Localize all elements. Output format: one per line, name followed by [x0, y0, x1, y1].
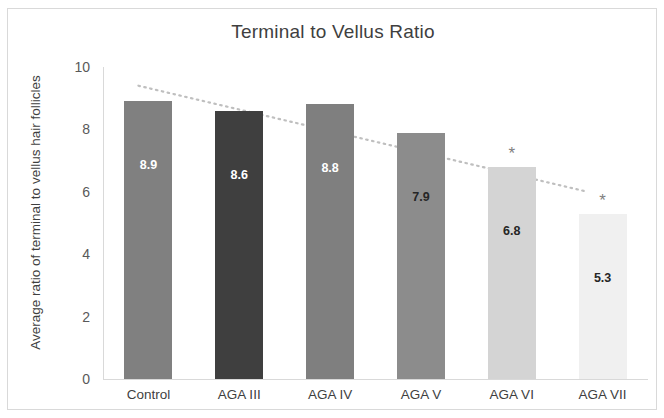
significance-asterisk: * [579, 192, 627, 209]
y-tick-label: 4 [82, 246, 90, 262]
bar[interactable] [124, 101, 172, 379]
x-axis-category-label: AGA VII [548, 387, 658, 402]
bar[interactable] [306, 104, 354, 379]
y-tick-label: 10 [74, 59, 90, 75]
y-tick-label: 6 [82, 184, 90, 200]
plot-area: 8.98.68.87.96.8*5.3* [103, 67, 648, 379]
x-axis-line [103, 379, 648, 380]
bar-value-label: 6.8 [488, 224, 536, 238]
y-axis-ticks: 0246810 [8, 67, 98, 379]
chart-title: Terminal to Vellus Ratio [8, 21, 658, 43]
bar-value-label: 8.8 [306, 161, 354, 175]
y-tick-label: 2 [82, 309, 90, 325]
bar-value-label: 7.9 [397, 190, 445, 204]
significance-asterisk: * [488, 145, 536, 162]
y-tick-label: 8 [82, 121, 90, 137]
bar[interactable] [488, 167, 536, 379]
chart-container: Terminal to Vellus Ratio Average ratio o… [7, 8, 657, 410]
bar-value-label: 5.3 [579, 271, 627, 285]
bar-value-label: 8.9 [124, 158, 172, 172]
bar[interactable] [215, 111, 263, 379]
bar[interactable] [397, 133, 445, 379]
bar-value-label: 8.6 [215, 168, 263, 182]
bar[interactable] [579, 214, 627, 379]
y-tick-label: 0 [82, 371, 90, 387]
